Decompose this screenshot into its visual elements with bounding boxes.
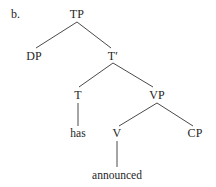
terminal-label-announced: announced — [92, 169, 142, 181]
node-label-v: V — [113, 126, 122, 140]
syntax-tree-figure: TP DP T′ T VP has V CP announced b. — [0, 0, 216, 187]
terminal-label-has: has — [70, 127, 86, 139]
node-label-tp: TP — [70, 7, 85, 21]
tree-node-labels: TP DP T′ T VP has V CP announced — [26, 7, 203, 181]
branch-tbar-t — [79, 63, 113, 87]
branch-tp-tbar — [77, 22, 111, 48]
branch-vp-v — [119, 103, 157, 126]
syntax-tree-canvas: TP DP T′ T VP has V CP announced b. — [0, 0, 216, 187]
figure-letter-label: b. — [11, 7, 20, 21]
node-label-t-bar: T′ — [108, 49, 119, 63]
node-label-t: T — [74, 88, 82, 102]
branch-tbar-vp — [113, 63, 153, 87]
branch-tp-dp — [36, 22, 77, 48]
tree-branches — [36, 22, 193, 167]
node-label-vp: VP — [149, 88, 165, 102]
node-label-dp: DP — [26, 49, 42, 63]
node-label-cp: CP — [187, 126, 202, 140]
branch-vp-cp — [157, 103, 193, 126]
